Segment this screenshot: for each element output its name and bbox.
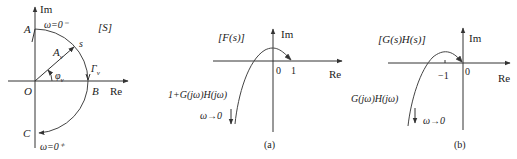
point-a-label: A bbox=[23, 23, 31, 35]
origin-o-label: O bbox=[24, 85, 32, 97]
b-caption: (b) bbox=[454, 139, 466, 151]
a-plane-label: [F(s)] bbox=[218, 31, 245, 44]
s-plane-im-label: Im bbox=[40, 3, 53, 15]
b-tick-minus1: −1 bbox=[438, 70, 449, 81]
point-c-label: C bbox=[23, 127, 31, 139]
point-s-label: s bbox=[79, 38, 83, 49]
s-plane-arc-lower bbox=[39, 81, 88, 133]
b-tick-0: 0 bbox=[465, 66, 470, 77]
b-re-label: Re bbox=[498, 72, 510, 84]
angle-phi-arc bbox=[48, 70, 52, 81]
diagram-b: [G(s)H(s)] Im −1 0 Re G(jω)H(jω) ω→0 (b) bbox=[351, 28, 510, 151]
omega-zero-minus-label: ω=0⁻ bbox=[44, 19, 69, 30]
diagram-a: [F(s)] Im 0 1 Re 1+G(jω)H(jω) ω→0 (a) bbox=[168, 28, 342, 151]
s-plane-label: [S] bbox=[98, 21, 112, 33]
a-im-label: Im bbox=[281, 28, 294, 40]
a-nyquist-curve bbox=[235, 48, 290, 124]
a-caption: (a) bbox=[264, 139, 275, 151]
diagram-canvas: Im Re ω=0⁻ [S] A s Aν φν Γν O B C ω=0⁺ [… bbox=[0, 0, 517, 159]
a-tick-1: 1 bbox=[291, 65, 296, 76]
b-omega-label: ω→0 bbox=[423, 115, 445, 126]
b-im-label: Im bbox=[469, 32, 482, 44]
angle-phi-label: φν bbox=[55, 70, 65, 84]
a-tick-0: 0 bbox=[276, 65, 281, 76]
a-omega-label: ω→0 bbox=[200, 110, 222, 121]
omega-zero-plus-label: ω=0⁺ bbox=[40, 141, 65, 152]
a-curve-label: 1+G(jω)H(jω) bbox=[168, 89, 228, 101]
s-plane-diagram: Im Re ω=0⁻ [S] A s Aν φν Γν O B C ω=0⁺ bbox=[8, 3, 128, 152]
b-curve-label: G(jω)H(jω) bbox=[351, 93, 399, 105]
vector-a-label: Aν bbox=[52, 46, 64, 61]
a-re-label: Re bbox=[329, 68, 341, 80]
contour-gamma-label: Γν bbox=[90, 63, 101, 77]
point-b-label: B bbox=[92, 85, 99, 97]
b-plane-label: [G(s)H(s)] bbox=[378, 33, 426, 46]
s-plane-re-label: Re bbox=[110, 85, 122, 97]
